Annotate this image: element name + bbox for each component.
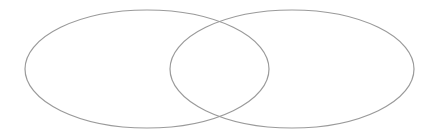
right-set-ellipse xyxy=(170,10,414,128)
venn-diagram xyxy=(0,0,435,137)
left-set-ellipse xyxy=(25,10,269,128)
